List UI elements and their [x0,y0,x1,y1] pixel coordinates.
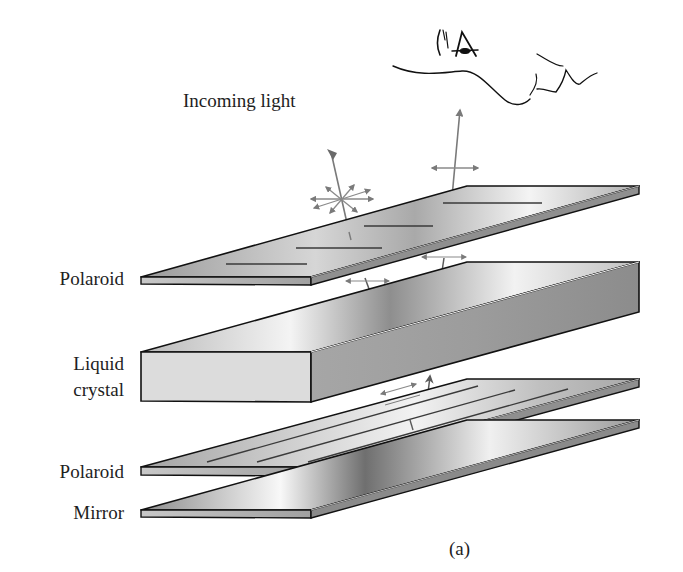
mirror-label: Mirror [38,502,124,524]
liquid-crystal-label-line1: Liquid [38,353,124,375]
figure-caption: (a) [449,538,470,560]
lcd-diagram: Incoming light Polaroid Liquid crystal P… [0,0,683,572]
liquid-crystal-label-line2: crystal [38,379,124,401]
bottom-polaroid-label: Polaroid [38,461,124,483]
unpolarized-light-star-icon [311,185,373,213]
top-polaroid-label: Polaroid [38,268,124,290]
incoming-light-label: Incoming light [183,90,295,112]
observer-face-icon [393,30,597,105]
